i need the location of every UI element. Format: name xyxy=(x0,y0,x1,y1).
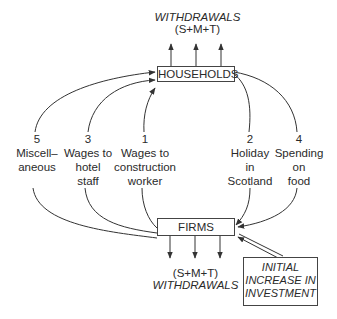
investment-line: INCREASE IN xyxy=(244,274,317,287)
flow-text-line: in xyxy=(224,160,276,174)
flow-number: 5 xyxy=(12,132,62,146)
initial-investment-box: INITIAL INCREASE IN INVESTMENT xyxy=(243,257,318,306)
flow-3-upper xyxy=(88,80,155,132)
flow-number: 2 xyxy=(224,132,276,146)
flow-text-line: hotel xyxy=(60,160,116,174)
flow-text-line: worker xyxy=(112,174,178,188)
flow-1-lower xyxy=(142,188,157,228)
flow-label-2: 2 Holiday in Scotland xyxy=(224,132,276,188)
investment-line: INITIAL xyxy=(244,261,317,274)
flow-text-line: on xyxy=(272,160,326,174)
flow-number: 3 xyxy=(60,132,116,146)
flow-text-line: food xyxy=(272,174,326,188)
flow-label-5: 5 Miscell– aneous xyxy=(12,132,62,174)
households-box: HOUSEHOLDS xyxy=(157,66,235,82)
top-withdrawals-formula: (S+M+T) xyxy=(150,22,245,36)
flow-text-line: construction xyxy=(112,160,178,174)
investment-arrow-line-b xyxy=(238,237,280,259)
investment-line: INVESTMENT xyxy=(244,287,317,300)
flow-text-line: Wages to xyxy=(60,146,116,160)
flow-text-line: Wages to xyxy=(112,146,178,160)
flow-text-line: Scotland xyxy=(224,174,276,188)
flow-2-lower xyxy=(236,188,250,225)
flow-5-lower xyxy=(33,188,157,238)
flow-label-1: 1 Wages to construction worker xyxy=(112,132,178,188)
flow-text-line: Miscell– xyxy=(12,146,62,160)
firms-box: FIRMS xyxy=(157,218,235,236)
flow-5-upper xyxy=(35,72,155,132)
flow-1-upper xyxy=(144,88,155,132)
flow-4-upper xyxy=(234,72,297,132)
bottom-withdrawals-title: WITHDRAWALS xyxy=(148,278,243,292)
flow-label-4: 4 Spending on food xyxy=(272,132,326,188)
flow-2-upper xyxy=(234,74,250,132)
flow-text-line: Spending xyxy=(272,146,326,160)
flow-text-line: staff xyxy=(60,174,116,188)
flow-text-line: aneous xyxy=(12,160,62,174)
flow-text-line: Holiday xyxy=(224,146,276,160)
flow-label-3: 3 Wages to hotel staff xyxy=(60,132,116,188)
flow-number: 1 xyxy=(112,132,178,146)
investment-arrow-line-a xyxy=(239,234,283,256)
flow-number: 4 xyxy=(272,132,326,146)
